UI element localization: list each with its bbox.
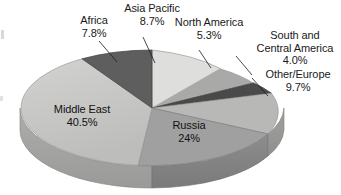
label-south-central-america-name-line1: South and bbox=[249, 29, 341, 42]
label-north-america: North America 5.3% bbox=[165, 16, 253, 41]
label-north-america-name: North America bbox=[165, 16, 253, 29]
label-russia-name: Russia bbox=[153, 119, 225, 132]
label-middle-east-pct: 40.5% bbox=[34, 116, 130, 129]
pie-chart-figure: Africa 7.8% Asia Pacific 8.7% North Amer… bbox=[0, 0, 341, 195]
label-south-central-america-name-line2: Central America bbox=[249, 42, 341, 55]
label-asia-pacific-name: Asia Pacific bbox=[112, 2, 192, 15]
label-south-central-america-pct: 4.0% bbox=[249, 54, 341, 67]
label-middle-east-name: Middle East bbox=[34, 103, 130, 116]
label-other-europe-pct: 9.7% bbox=[255, 81, 341, 94]
label-other-europe: Other/Europe 9.7% bbox=[255, 68, 341, 93]
label-north-america-pct: 5.3% bbox=[165, 29, 253, 42]
label-africa-pct: 7.8% bbox=[66, 27, 122, 40]
label-russia: Russia 24% bbox=[153, 119, 225, 144]
label-middle-east: Middle East 40.5% bbox=[34, 103, 130, 128]
label-other-europe-name: Other/Europe bbox=[255, 68, 341, 81]
label-russia-pct: 24% bbox=[153, 132, 225, 145]
label-south-central-america: South and Central America 4.0% bbox=[249, 29, 341, 67]
